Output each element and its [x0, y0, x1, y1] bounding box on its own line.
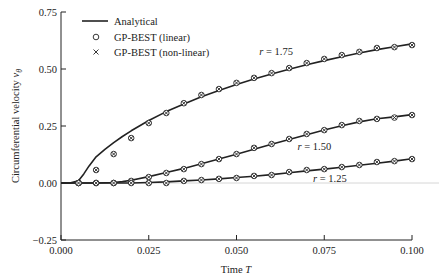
data-point-marker — [251, 75, 257, 81]
legend-label-nonlinear: GP-BEST (non-linear) — [114, 47, 210, 59]
data-point-marker — [251, 173, 257, 179]
data-point-marker — [146, 120, 152, 126]
data-point-marker — [216, 156, 222, 162]
data-point-marker — [392, 44, 398, 50]
y-tick-label: 0.25 — [39, 121, 57, 132]
curve-label: r = 1.75 — [259, 46, 293, 57]
x-axis-title-main: Time — [221, 264, 245, 275]
y-tick-label: 0.75 — [39, 7, 57, 18]
data-point-marker — [128, 135, 134, 141]
data-point-marker — [269, 141, 275, 147]
data-point-marker — [164, 170, 170, 176]
data-point-marker — [164, 180, 170, 186]
legend: Analytical GP-BEST (linear) GP-BEST (non… — [82, 16, 210, 59]
data-point-marker — [374, 159, 380, 165]
y-tick-label: 0.00 — [39, 178, 57, 189]
data-point-marker — [93, 180, 99, 186]
data-point-marker — [181, 100, 187, 106]
x-tick-label: 0.025 — [137, 245, 161, 256]
data-point-marker — [216, 176, 222, 182]
legend-label-linear: GP-BEST (linear) — [114, 32, 190, 44]
data-point-marker — [304, 131, 310, 137]
y-tick-label: 0.50 — [39, 64, 57, 75]
x-axis-title: Time T — [221, 264, 252, 275]
data-point-marker — [181, 178, 187, 184]
data-point-marker — [339, 52, 345, 58]
data-point-marker — [199, 177, 205, 183]
data-point-marker — [234, 151, 240, 157]
data-point-marker — [286, 65, 292, 71]
data-point-marker — [321, 56, 327, 62]
data-point-marker — [234, 175, 240, 181]
curve-annotations: r = 1.75r = 1.50r = 1.25 — [259, 46, 346, 184]
data-point-marker — [321, 166, 327, 172]
chart: 0.750.500.250.00−0.250.0000.0250.0500.07… — [0, 0, 439, 279]
data-point-marker — [146, 180, 152, 186]
y-axis-title-subscript: θ — [15, 69, 24, 73]
data-point-marker — [357, 162, 363, 168]
data-point-marker — [76, 180, 82, 186]
data-point-marker — [286, 169, 292, 175]
data-point-marker — [111, 151, 117, 157]
data-point-marker — [146, 174, 152, 180]
curve-label: r = 1.50 — [298, 141, 332, 152]
data-point-marker — [409, 156, 415, 162]
data-point-marker — [269, 172, 275, 178]
data-point-marker — [269, 70, 275, 76]
data-point-marker — [181, 166, 187, 172]
data-point-marker — [199, 161, 205, 167]
data-point-marker — [374, 116, 380, 122]
data-point-marker — [339, 164, 345, 170]
data-point-marker — [199, 92, 205, 98]
data-point-marker — [216, 86, 222, 92]
x-tick-label: 0.075 — [312, 245, 336, 256]
data-point-marker — [128, 180, 134, 186]
data-point-marker — [251, 145, 257, 151]
circle-marker-icon — [93, 34, 99, 40]
curve-label: r = 1.25 — [313, 173, 347, 184]
y-axis-title-main: Circumferential velocity — [10, 78, 21, 184]
data-point-marker — [357, 118, 363, 124]
data-point-marker — [111, 180, 117, 186]
data-point-marker — [304, 167, 310, 173]
axes: 0.750.500.250.00−0.250.0000.0250.0500.07… — [33, 7, 424, 256]
plot-area — [61, 42, 415, 186]
x-tick-label: 0.000 — [49, 245, 73, 256]
data-point-marker — [374, 45, 380, 51]
data-point-marker — [164, 110, 170, 116]
y-axis-title: Circumferential velocity vθ — [10, 69, 24, 183]
data-point-marker — [321, 127, 327, 133]
legend-label-analytical: Analytical — [114, 16, 158, 27]
data-point-marker — [392, 158, 398, 164]
x-axis-title-symbol: T — [245, 264, 252, 275]
x-tick-label: 0.100 — [400, 245, 424, 256]
data-point-marker — [392, 115, 398, 121]
x-tick-label: 0.050 — [225, 245, 249, 256]
data-point-marker — [339, 122, 345, 128]
data-point-marker — [304, 60, 310, 66]
data-point-marker — [357, 49, 363, 55]
data-point-marker — [409, 42, 415, 48]
data-point-marker — [93, 167, 99, 173]
data-point-marker — [234, 80, 240, 86]
data-point-marker — [286, 136, 292, 142]
analytical-curve — [61, 115, 412, 183]
x-marker-icon — [94, 50, 99, 55]
data-point-marker — [409, 112, 415, 118]
